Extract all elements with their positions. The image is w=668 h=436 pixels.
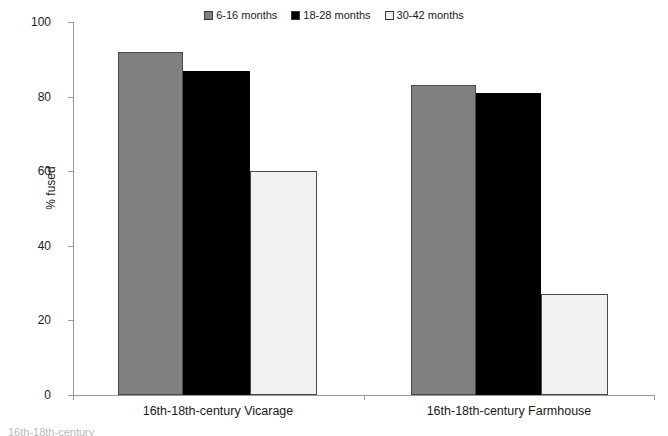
legend-swatch-icon <box>204 11 213 20</box>
bar-vicarage-6-16-months <box>118 52 183 395</box>
plot-area: 100 80 60 40 20 0 % fused 16th-18th-cent… <box>73 22 655 395</box>
legend-item-30-42-months: 30-42 months <box>385 10 464 21</box>
y-axis-line <box>73 22 74 395</box>
legend-label: 30-42 months <box>397 10 464 21</box>
bar-chart: 6-16 months 18-28 months 30-42 months 10… <box>0 0 668 436</box>
y-axis-tick <box>68 22 73 23</box>
y-axis-tick <box>68 246 73 247</box>
legend-swatch-icon <box>291 11 300 20</box>
bar-vicarage-18-28-months <box>183 71 250 396</box>
x-axis-category-label-vicarage: 16th-18th-century Vicarage <box>68 404 368 418</box>
y-axis-tick-label: 20 <box>11 314 51 326</box>
y-axis-tick-label: 100 <box>11 16 51 28</box>
y-axis-tick <box>68 97 73 98</box>
chart-legend: 6-16 months 18-28 months 30-42 months <box>0 10 668 21</box>
x-axis-category-label-farmhouse: 16th-18th-century Farmhouse <box>359 404 659 418</box>
x-axis-tick <box>654 395 655 400</box>
bar-vicarage-30-42-months <box>250 171 317 395</box>
bar-farmhouse-6-16-months <box>411 85 476 395</box>
y-axis-tick <box>68 171 73 172</box>
x-axis-tick <box>73 395 74 400</box>
legend-swatch-icon <box>385 11 394 20</box>
legend-item-18-28-months: 18-28 months <box>291 10 370 21</box>
x-axis-tick <box>364 395 365 400</box>
legend-label: 18-28 months <box>303 10 370 21</box>
y-axis-tick <box>68 320 73 321</box>
legend-label: 6-16 months <box>216 10 277 21</box>
bar-farmhouse-30-42-months <box>541 294 608 395</box>
y-axis-tick-label: 80 <box>11 91 51 103</box>
bar-farmhouse-18-28-months <box>476 93 541 395</box>
legend-item-6-16-months: 6-16 months <box>204 10 277 21</box>
y-axis-tick-label: 40 <box>11 240 51 252</box>
y-axis-tick-label: 0 <box>11 389 51 401</box>
clipped-bottom-caption: 16th-18th-century <box>8 427 94 436</box>
y-axis-title: % fused <box>45 148 57 228</box>
